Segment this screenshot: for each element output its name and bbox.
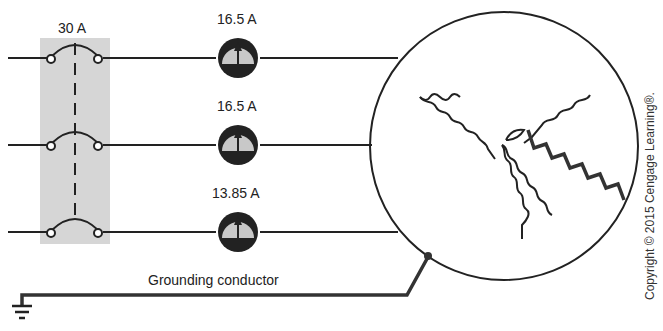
shorted-winding	[528, 130, 624, 200]
ammeter-2: 16.5 A	[217, 98, 258, 165]
motor-windings	[420, 94, 590, 239]
grounding-conductor-label: Grounding conductor	[148, 272, 279, 288]
diagram-canvas: 30 A 16.5 A 16.5 A	[0, 0, 663, 331]
breaker-rating-label: 30 A	[58, 20, 87, 36]
copyright-text: Copyright © 2015 Cengage Learning®.	[643, 92, 657, 300]
svg-text:13.85 A: 13.85 A	[212, 185, 260, 201]
ground-symbol-icon	[12, 306, 32, 318]
svg-text:16.5 A: 16.5 A	[217, 11, 257, 27]
ammeter-3: 13.85 A	[212, 185, 260, 252]
ammeter-1: 16.5 A	[217, 11, 258, 78]
ground-connection-dot	[424, 252, 432, 260]
svg-text:16.5 A: 16.5 A	[217, 98, 257, 114]
